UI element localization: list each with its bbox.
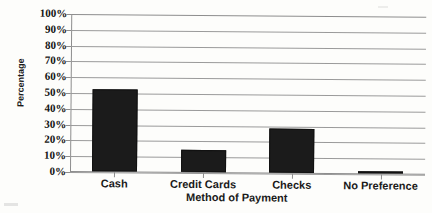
bar [358,171,403,173]
chart-skew-wrapper: 100%90%80%70%60%50%40%30%20%10%0% Percen… [0,0,432,213]
gridlines [71,14,426,17]
y-tick-mark [65,125,70,126]
bar [181,150,226,172]
y-tick-mark [66,77,71,78]
y-tick-mark [66,93,71,94]
gridline [71,14,426,18]
y-tick-label: 100% [21,8,67,19]
y-tick-label: 60% [21,71,67,82]
y-tick-mark [66,61,71,62]
scan-artifact [4,203,18,206]
y-tick-label: 80% [21,39,67,50]
y-tick-label: 50% [21,87,67,98]
y-tick-mark [66,30,71,31]
y-tick-mark [65,109,70,110]
y-tick-mark [65,172,70,173]
y-tick-mark [66,14,71,15]
bar-chart-figure: 100%90%80%70%60%50%40%30%20%10%0% Percen… [0,0,432,213]
y-tick-label: 30% [20,118,66,129]
y-tick-label: 10% [20,150,66,161]
gridline [71,77,426,81]
x-tick-label: No Preference [320,179,432,193]
bar [92,89,138,172]
y-tick-mark [65,156,70,157]
y-tick-label: 90% [21,23,67,34]
y-tick-label: 0% [20,166,66,177]
y-tick-label: 40% [20,102,66,113]
y-tick-label: 20% [20,134,66,145]
y-tick-mark [65,140,70,141]
y-tick-mark [66,46,71,47]
y-axis-title: Percentage [15,43,26,123]
plot-area [70,14,426,175]
gridline [71,46,426,50]
gridline [71,30,426,34]
bar [269,128,314,173]
scan-artifact [378,6,388,8]
y-tick-label: 70% [21,55,67,66]
gridline [71,61,426,65]
x-axis-title-text: Method of Payment [186,191,288,204]
